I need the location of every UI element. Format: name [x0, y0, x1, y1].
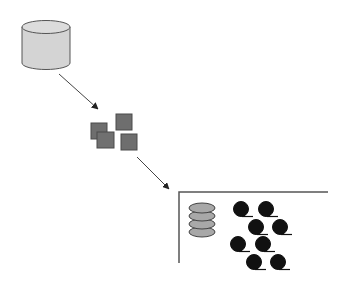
tape-reels-icon	[231, 202, 293, 270]
disk-stack-icon	[189, 203, 215, 237]
diagram-canvas	[0, 0, 342, 285]
data-blocks-icon	[91, 114, 137, 150]
arrow-to-blocks	[59, 74, 98, 109]
arrow-to-storage	[137, 157, 169, 189]
database-cylinder-icon	[22, 21, 70, 70]
